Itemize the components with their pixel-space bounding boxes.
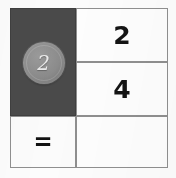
answer-value [122,142,123,143]
answer-cell[interactable] [76,116,168,168]
operand-cell-1[interactable]: 2 [76,8,168,62]
worksheet-page: 2 2 4 = [0,0,176,178]
equals-sign-icon: = [33,130,52,154]
counter-token-circle-icon[interactable]: 2 [23,42,65,84]
operand-value-1: 2 [113,23,130,48]
operand-value-2: 4 [113,77,130,102]
equals-cell[interactable]: = [10,116,76,168]
equation-grid: 2 2 4 = [10,8,168,168]
token-cell[interactable]: 2 [10,8,76,116]
token-value-label: 2 [37,53,50,73]
operand-cell-2[interactable]: 4 [76,62,168,116]
